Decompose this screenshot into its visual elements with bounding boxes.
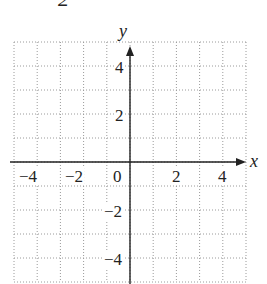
y-tick-label: 2 <box>114 107 125 124</box>
x-tick-label: −2 <box>64 168 84 185</box>
y-tick-label: −4 <box>103 251 123 268</box>
x-tick-label: 4 <box>217 168 228 185</box>
x-axis-arrow-icon <box>236 158 246 166</box>
y-axis-label: y <box>119 22 127 40</box>
y-axis-arrow-icon <box>126 46 134 56</box>
y-tick-label: −2 <box>103 203 123 220</box>
x-tick-label: 2 <box>171 168 182 185</box>
coordinate-grid <box>0 0 267 284</box>
x-axis-label: x <box>250 152 258 170</box>
x-tick-label: 0 <box>112 168 123 185</box>
y-tick-label: 4 <box>114 59 125 76</box>
x-tick-label: −4 <box>18 168 38 185</box>
